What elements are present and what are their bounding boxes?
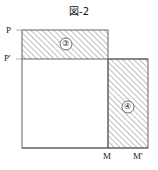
- figure-container: 図-2 P P' M M' ③ ④: [0, 0, 158, 170]
- vertex-label-p-prime: P': [4, 54, 11, 63]
- vertex-label-m: M: [103, 152, 111, 161]
- region-label-4: ④: [124, 103, 131, 111]
- vertex-label-p: P: [6, 26, 11, 35]
- geometry-diagram-canvas: [0, 0, 158, 170]
- vertex-label-m-prime: M': [133, 152, 143, 161]
- inner-square-shape: [22, 59, 108, 148]
- region-label-3: ③: [62, 40, 69, 48]
